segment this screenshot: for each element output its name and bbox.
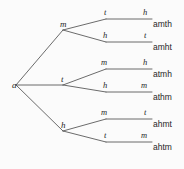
m-to-h [63, 30, 106, 42]
outcome-athm: athm [153, 93, 172, 102]
m-to-t [63, 19, 106, 30]
h-to-m [63, 119, 106, 131]
edge-label-level2-4: h [103, 81, 107, 90]
edge-label-level3-1: h [143, 8, 147, 17]
t-to-m [63, 69, 106, 85]
edge-label-level2-3: m [101, 58, 107, 67]
outcome-atmh: atmh [153, 70, 172, 79]
node-level1-t: t [61, 75, 64, 84]
t-to-h [63, 85, 106, 92]
node-root: a [12, 81, 17, 90]
root-to-h [16, 85, 63, 131]
node-level1-h: h [61, 121, 66, 130]
outcome-tree-diagram: a m t h t h m h m t h t h m t m amth amh… [0, 0, 184, 169]
edge-label-level2-5: m [101, 108, 107, 117]
edge-label-level3-5: t [144, 108, 146, 117]
h-to-t [63, 131, 106, 142]
outcome-ahtm: ahtm [153, 143, 172, 152]
edge-label-level3-6: m [141, 131, 147, 140]
edge-label-level3-4: m [141, 81, 147, 90]
root-to-m [16, 30, 63, 85]
edge-label-level3-2: t [144, 31, 146, 40]
edge-label-level3-3: h [143, 58, 147, 67]
node-level1-m: m [60, 20, 67, 29]
edge-label-level2-2: h [103, 31, 107, 40]
edge-label-level2-6: t [104, 131, 106, 140]
outcome-amht: amht [153, 43, 172, 52]
outcome-amth: amth [153, 20, 172, 29]
edge-label-level2-1: t [104, 8, 106, 17]
outcome-ahmt: ahmt [153, 120, 172, 129]
